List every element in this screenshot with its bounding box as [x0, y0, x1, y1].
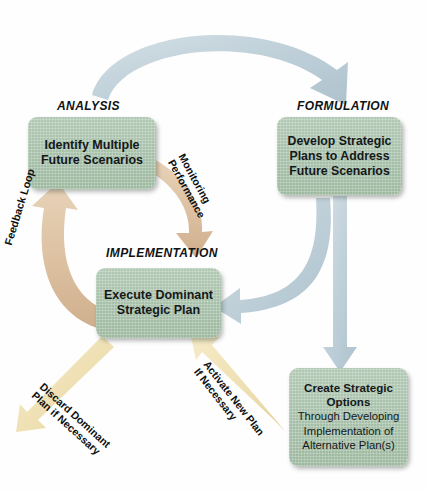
- stage-caption-implementation: IMPLEMENTATION: [106, 246, 218, 260]
- process-box-implementation[interactable]: Execute Dominant Strategic Plan: [96, 268, 221, 338]
- box-implementation-line-1: Execute Dominant: [104, 288, 213, 302]
- box-options-sub-line-3: Alternative Plan(s): [298, 438, 400, 453]
- process-box-formulation[interactable]: Develop Strategic Plans to Address Futur…: [277, 117, 402, 195]
- process-box-create-strategic-options[interactable]: Create Strategic Options Through Develop…: [289, 368, 408, 466]
- box-implementation-line-2: Strategic Plan: [117, 303, 200, 317]
- arrow-analysis-to-formulation: [92, 35, 348, 105]
- stage-caption-formulation: FORMULATION: [297, 99, 389, 113]
- box-formulation-line-1: Develop Strategic: [288, 134, 392, 148]
- strategic-planning-cycle-diagram: ANALYSIS FORMULATION IMPLEMENTATION Iden…: [0, 0, 428, 491]
- box-options-sub-line-2: Implementation of: [298, 424, 400, 439]
- process-box-analysis[interactable]: Identify Multiple Future Scenarios: [28, 117, 156, 189]
- box-options-sub-line-1: Through Developing: [298, 409, 400, 424]
- box-options-heading-line-2: Options: [298, 395, 400, 409]
- stage-caption-analysis: ANALYSIS: [57, 99, 120, 113]
- arrow-formulation-to-implementation: [214, 198, 331, 324]
- box-formulation-line-2: Plans to Address: [289, 149, 389, 163]
- box-options-heading-line-1: Create Strategic: [298, 381, 400, 395]
- box-analysis-line-2: Future Scenarios: [41, 153, 143, 167]
- box-formulation-line-3: Future Scenarios: [289, 164, 389, 178]
- box-analysis-line-1: Identify Multiple: [44, 138, 139, 152]
